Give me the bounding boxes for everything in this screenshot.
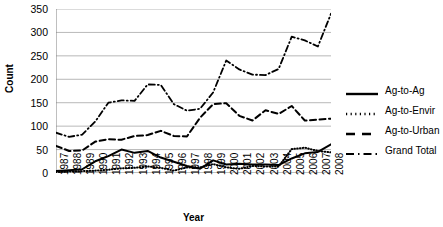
legend-label: Ag-to-Urban [385,125,439,136]
dashdot-line-swatch [345,145,379,155]
legend-label: Ag-to-Envir [385,105,435,116]
x-tick-label: 1993 [139,153,149,175]
x-axis-tick-labels: 1987198819891990199119921993199419951996… [56,175,331,211]
x-tick-label: 1992 [125,153,135,175]
x-tick-label: 1991 [112,153,122,175]
x-tick-label: 2004 [283,153,293,175]
y-axis-tick-labels: 050100150200250300350 [0,0,53,227]
x-tick-label: 1997 [191,153,201,175]
legend-label: Ag-to-Ag [385,85,424,96]
y-tick-label: 200 [30,74,48,84]
y-tick-label: 350 [30,4,48,14]
x-tick-label: 2006 [309,153,319,175]
x-tick-label: 1989 [86,153,96,175]
legend-item[interactable]: Grand Total [345,140,443,160]
x-tick-label: 1988 [73,153,83,175]
chart-legend: Ag-to-AgAg-to-EnvirAg-to-UrbanGrand Tota… [345,80,443,160]
x-axis-title: Year [56,212,331,223]
plot-area [56,9,331,173]
y-tick-label: 250 [30,51,48,61]
dashed-line-swatch [345,125,379,135]
x-tick-label: 1999 [217,153,227,175]
x-tick-label: 1995 [165,153,175,175]
y-tick-label: 150 [30,98,48,108]
y-tick-label: 300 [30,27,48,37]
x-tick-label: 2007 [322,153,332,175]
x-tick-label: 2003 [270,153,280,175]
plot-svg [56,9,331,173]
x-tick-label: 2008 [335,153,345,175]
x-tick-label: 1996 [178,153,188,175]
y-tick-label: 0 [42,168,48,178]
y-tick-label: 100 [30,121,48,131]
x-tick-label: 2005 [296,153,306,175]
x-tick-label: 1994 [152,153,162,175]
y-tick-label: 50 [36,145,48,155]
x-tick-label: 1990 [99,153,109,175]
legend-item[interactable]: Ag-to-Ag [345,80,443,100]
x-tick-label: 1987 [60,153,70,175]
chart-container: Count 050100150200250300350 198719881989… [0,0,443,227]
x-tick-label: 1998 [204,153,214,175]
dotted-line-swatch [345,105,379,115]
x-tick-label: 2002 [256,153,266,175]
legend-item[interactable]: Ag-to-Urban [345,120,443,140]
x-tick-label: 2000 [230,153,240,175]
legend-label: Grand Total [385,145,437,156]
legend-item[interactable]: Ag-to-Envir [345,100,443,120]
solid-line-swatch [345,85,379,95]
x-tick-label: 2001 [243,153,253,175]
